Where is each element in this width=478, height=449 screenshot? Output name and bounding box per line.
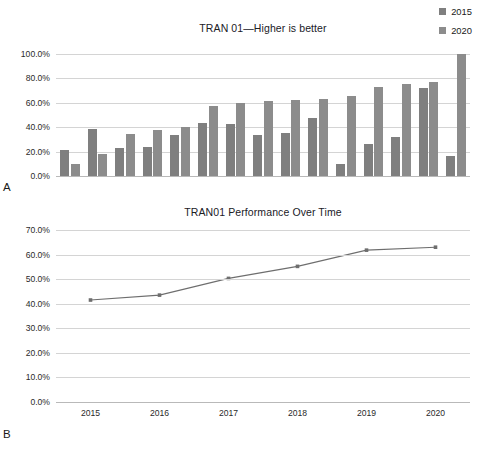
x-axis-tick-label: 2016 — [150, 408, 169, 418]
bar-2020-12[interactable] — [374, 87, 383, 176]
bar-2020-14[interactable] — [429, 82, 438, 176]
panel-b-plot-area: 2015: 41.5%2016: 43.5%2017: 50.3%2018: 5… — [56, 230, 470, 402]
x-axis-line — [56, 402, 470, 403]
gridline — [56, 78, 470, 79]
gridline — [56, 377, 470, 378]
panel-b-title: TRAN01 Performance Over Time — [56, 206, 470, 218]
bar-2015-4[interactable] — [143, 147, 152, 176]
bar-2020-13[interactable] — [402, 84, 411, 176]
bar-2020-10[interactable] — [319, 99, 328, 176]
panel-a-plot-area: 0.0%20.0%40.0%60.0%80.0%100.0% — [56, 54, 470, 176]
x-axis-line — [56, 176, 470, 177]
gridline — [56, 353, 470, 354]
bar-2020-8[interactable] — [264, 101, 273, 176]
bar-2020-15[interactable] — [457, 54, 466, 176]
panel-b-letter: B — [3, 428, 11, 440]
x-axis-tick-label: 2019 — [357, 408, 376, 418]
x-axis-tick-label: 2015 — [81, 408, 100, 418]
y-axis-tick-label: 20.0% — [2, 348, 50, 358]
legend-label: 2020 — [451, 25, 472, 36]
bar-2020-6[interactable] — [209, 106, 218, 176]
gridline — [56, 328, 470, 329]
y-axis-tick-label: 50.0% — [2, 274, 50, 284]
legend-label: 2015 — [451, 6, 472, 17]
bar-2015-14[interactable] — [419, 88, 428, 176]
y-axis-tick-label: 30.0% — [2, 323, 50, 333]
y-axis-tick-label: 40.0% — [2, 122, 50, 132]
bar-2015-8[interactable] — [253, 135, 262, 176]
y-axis-tick-label: 0.0% — [2, 397, 50, 407]
bar-2015-15[interactable] — [446, 156, 455, 176]
data-point-marker-2016[interactable]: 2016: 43.5% — [158, 293, 162, 297]
y-axis-tick-label: 80.0% — [2, 73, 50, 83]
panel-b-line-chart: TRAN01 Performance Over Time 2015: 41.5%… — [0, 200, 478, 449]
panel-a-letter: A — [3, 181, 11, 193]
line-series-svg: 2015: 41.5%2016: 43.5%2017: 50.3%2018: 5… — [56, 230, 470, 402]
x-axis-tick-label: 2018 — [288, 408, 307, 418]
data-point-marker-2018[interactable]: 2018: 55.2% — [296, 265, 300, 269]
gridline — [56, 304, 470, 305]
bar-2020-2[interactable] — [98, 154, 107, 176]
legend-item-2020[interactable]: 2020 — [439, 25, 472, 36]
bar-2020-4[interactable] — [153, 130, 162, 176]
bar-2015-9[interactable] — [281, 133, 290, 176]
y-axis-tick-label: 60.0% — [2, 250, 50, 260]
bar-2020-5[interactable] — [181, 127, 190, 176]
bar-2015-11[interactable] — [336, 164, 345, 176]
bar-2020-7[interactable] — [236, 103, 245, 176]
bar-2020-1[interactable] — [71, 164, 80, 176]
gridline — [56, 54, 470, 55]
y-axis-tick-label: 20.0% — [2, 147, 50, 157]
bar-2015-5[interactable] — [170, 135, 179, 176]
bar-2015-13[interactable] — [391, 137, 400, 176]
bar-2020-3[interactable] — [126, 134, 135, 176]
y-axis-tick-label: 40.0% — [2, 299, 50, 309]
panel-a-bar-chart: TRAN 01—Higher is better 2015 2020 0.0%2… — [0, 0, 478, 198]
legend-swatch-icon — [439, 8, 446, 15]
y-axis-tick-label: 0.0% — [2, 171, 50, 181]
y-axis-tick-label: 70.0% — [2, 225, 50, 235]
panel-a-title: TRAN 01—Higher is better — [56, 22, 470, 34]
panel-a-legend: 2015 2020 — [439, 6, 472, 44]
bar-2020-11[interactable] — [347, 96, 356, 176]
data-point-marker-2019[interactable]: 2019: 61.8% — [365, 248, 369, 252]
x-axis-tick-label: 2020 — [426, 408, 445, 418]
figure-container: TRAN 01—Higher is better 2015 2020 0.0%2… — [0, 0, 478, 449]
gridline — [56, 255, 470, 256]
y-axis-tick-label: 100.0% — [2, 49, 50, 59]
x-axis-tick-label: 2017 — [219, 408, 238, 418]
legend-swatch-icon — [439, 27, 446, 34]
y-axis-tick-label: 10.0% — [2, 372, 50, 382]
bar-2015-6[interactable] — [198, 123, 207, 176]
bar-2015-12[interactable] — [364, 144, 373, 176]
legend-item-2015[interactable]: 2015 — [439, 6, 472, 17]
y-axis-tick-label: 60.0% — [2, 98, 50, 108]
bar-2015-3[interactable] — [115, 148, 124, 176]
bar-2015-7[interactable] — [226, 124, 235, 176]
bar-2015-1[interactable] — [60, 150, 69, 176]
bar-2015-10[interactable] — [308, 118, 317, 176]
data-point-marker-2015[interactable]: 2015: 41.5% — [89, 298, 93, 302]
bar-2020-9[interactable] — [291, 100, 300, 176]
bar-2015-2[interactable] — [88, 129, 97, 176]
data-point-marker-2020[interactable]: 2020: 63.0% — [434, 245, 438, 249]
gridline — [56, 279, 470, 280]
gridline — [56, 230, 470, 231]
